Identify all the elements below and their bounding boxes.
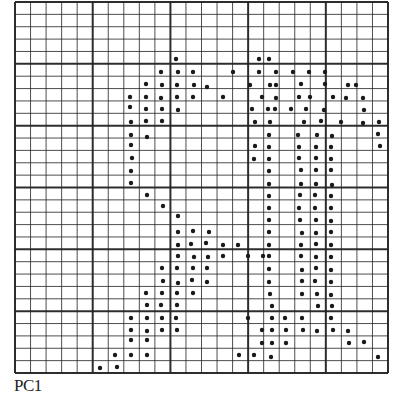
data-dot [289,107,293,111]
data-dot [191,266,195,270]
data-dot [314,255,318,259]
data-dot [267,145,271,149]
data-dot [267,57,271,61]
data-dot [378,144,382,148]
data-dot [314,242,318,246]
data-dot [330,304,334,308]
data-dot [129,328,133,332]
data-dot [175,95,179,99]
data-dot [129,120,133,124]
data-dot [129,353,133,357]
data-dot [252,157,256,161]
data-dot [191,291,195,295]
data-dot [302,120,306,124]
data-dot [297,95,301,99]
data-dot [260,341,264,345]
data-dot [206,255,210,259]
data-dot [347,341,351,345]
data-dot [315,133,319,137]
data-dot [175,328,179,332]
data-dot [331,95,335,99]
data-dot [191,70,195,74]
data-dot [308,95,312,99]
data-dot [191,95,195,99]
data-dot [299,168,303,172]
data-dot [192,83,196,87]
data-dot [159,70,163,74]
data-dot [329,230,333,234]
data-dot [267,218,271,222]
data-dot [176,108,180,112]
data-dot [267,243,271,247]
data-dot [314,218,318,222]
data-dot [301,328,305,332]
data-dot [204,241,208,245]
data-dot [145,329,149,333]
data-dot [300,268,304,272]
data-dot [176,243,180,247]
data-dot [268,292,272,296]
data-dot [361,96,365,100]
data-dot [205,280,209,284]
data-dot [176,70,180,74]
data-dot [322,108,326,112]
data-dot [307,70,311,74]
data-dot [160,119,164,123]
data-dot [300,292,304,296]
data-dot [145,316,149,320]
data-dot [267,230,271,234]
data-dot [221,243,225,247]
data-dot [236,243,240,247]
data-dot [113,353,117,357]
data-dot [297,156,301,160]
data-dot [144,107,148,111]
data-dot [231,70,235,74]
data-dot [268,83,272,87]
data-dot [274,96,278,100]
data-dot [159,96,163,100]
data-dot [174,316,178,320]
data-dot [129,169,133,173]
data-dot [237,353,241,357]
data-dot [189,242,193,246]
data-dot [128,105,132,109]
data-dot [128,95,132,99]
data-dot [362,108,366,112]
data-dot [329,168,333,172]
data-dot [246,254,250,258]
data-dot [253,120,257,124]
data-dot [270,304,274,308]
data-dot [344,96,348,100]
data-dot [346,329,350,333]
data-dot [144,82,148,86]
data-dot [314,156,318,160]
data-dot [261,254,265,258]
data-dot [266,107,270,111]
data-dot [176,230,180,234]
data-dot [313,279,317,283]
data-dot [329,268,333,272]
data-dot [175,83,179,87]
data-dot [313,206,317,210]
data-dot [144,95,148,99]
data-dot [329,243,333,247]
data-dot [300,279,304,283]
data-dot [161,279,165,283]
data-dot [361,121,365,125]
data-dot [329,219,333,223]
data-dot [323,70,327,74]
data-dot [191,229,195,233]
data-dot [144,119,148,123]
data-dot [221,95,225,99]
data-dot [330,183,334,187]
data-dot [329,280,333,284]
data-dot [144,291,148,295]
data-dot [160,266,164,270]
data-dot [269,355,273,359]
data-dot [354,83,358,87]
data-dot [329,293,333,297]
data-dot [207,230,211,234]
data-dot [257,57,261,61]
data-dot [98,366,102,370]
data-dot [115,365,119,369]
